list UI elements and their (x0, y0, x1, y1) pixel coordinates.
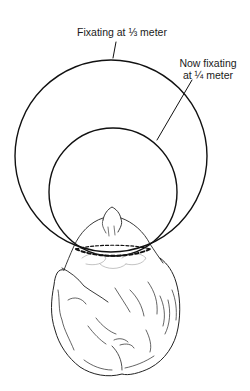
inner-label-leader-line (157, 80, 192, 140)
outer-label-leader-line (113, 42, 116, 58)
inner-circle-label-line1: Now fixating (168, 57, 248, 69)
outer-circle-label: Fixating at ⅓ meter (72, 26, 172, 38)
head-top-view-sketch (52, 207, 180, 376)
inner-circle-label: Now fixating at ¼ meter (168, 57, 248, 81)
nose-outline (103, 207, 122, 232)
hair-outline (52, 258, 180, 376)
inner-horopter-circle (49, 128, 177, 256)
inner-circle-label-line2: at ¼ meter (168, 69, 248, 81)
horopter-diagram: Fixating at ⅓ meter Now fixating at ¼ me… (0, 0, 250, 391)
face-left-outline (64, 218, 103, 270)
outer-horopter-circle (15, 60, 207, 252)
